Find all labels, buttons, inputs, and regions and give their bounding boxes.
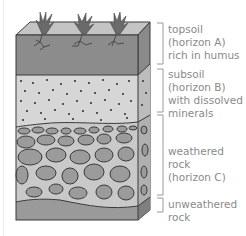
topsoil-layer <box>16 35 138 75</box>
label-unweathered-rock: unweathered rock <box>168 198 237 224</box>
layer-brackets <box>157 23 163 212</box>
bracket-bedrock <box>157 198 163 212</box>
label-weathered-rock: weathered rock (horizon C) <box>168 145 246 184</box>
bracket-subsoil <box>157 69 163 112</box>
label-subsoil: subsoil (horizon B) with dissolved miner… <box>168 68 243 120</box>
bracket-topsoil <box>157 23 163 64</box>
label-topsoil: topsoil (horizon A) rich in humus <box>168 23 240 62</box>
bracket-weathered <box>157 115 163 195</box>
